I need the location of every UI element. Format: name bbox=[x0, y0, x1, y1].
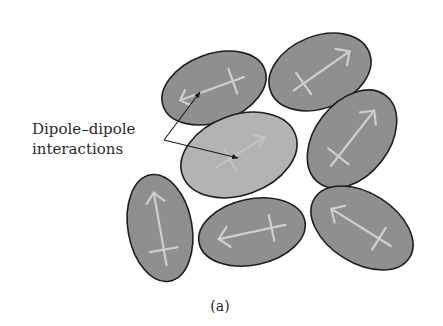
dipole-dipole-diagram: Dipole–dipole interactions (a) bbox=[0, 0, 443, 326]
molecule-bottom-right bbox=[296, 169, 428, 288]
molecule-bottom-left bbox=[119, 169, 201, 286]
diagram-label-line2: interactions bbox=[32, 140, 123, 158]
molecule-bottom-middle bbox=[192, 188, 311, 275]
diagram-label-line1: Dipole–dipole bbox=[32, 120, 135, 138]
figure-caption: (a) bbox=[210, 298, 229, 314]
